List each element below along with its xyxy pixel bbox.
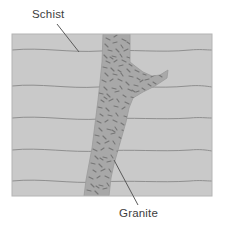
diagram-canvas: Schist Granite bbox=[0, 0, 225, 225]
granite-label-text: Granite bbox=[119, 207, 158, 219]
schist-label-text: Schist bbox=[32, 8, 65, 20]
geology-cross-section-figure: Schist Granite bbox=[0, 0, 225, 225]
